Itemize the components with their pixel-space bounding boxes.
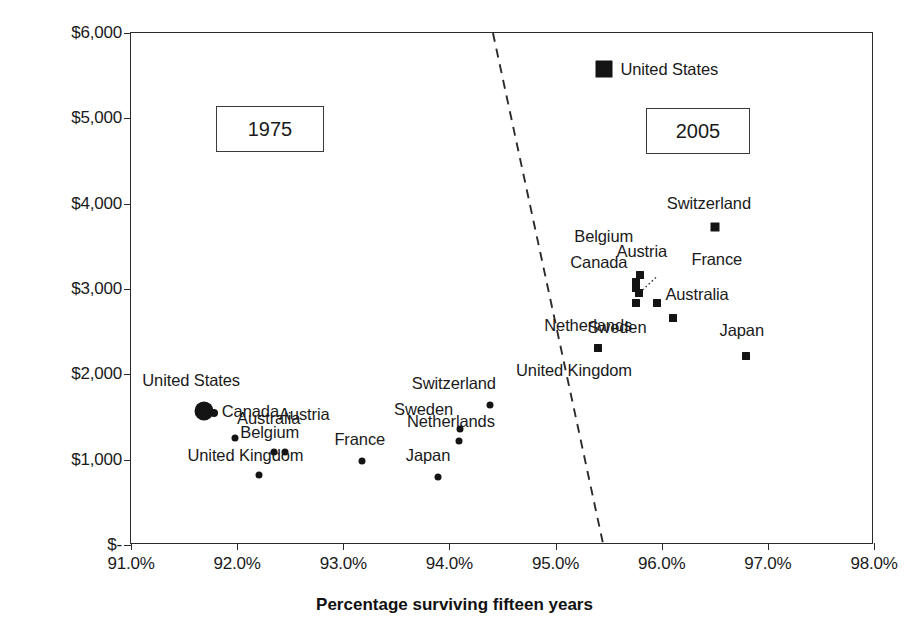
y-axis-tick xyxy=(124,33,131,34)
x-axis-tick xyxy=(768,543,769,550)
data-point-united-kingdom-1975[interactable] xyxy=(256,472,263,479)
data-point-switzerland-1975[interactable] xyxy=(486,401,493,408)
y-axis-tick xyxy=(124,374,131,375)
data-point-united-states-2005[interactable] xyxy=(596,60,613,77)
x-axis-tick-label: 94.0% xyxy=(426,554,473,574)
y-axis-tick-label: $2,000 xyxy=(71,364,122,384)
data-point-australia-2005[interactable] xyxy=(669,314,677,322)
x-axis-tick-label: 96.0% xyxy=(638,554,685,574)
x-axis-tick xyxy=(556,543,557,550)
y-axis-tick xyxy=(124,118,131,119)
y-axis-tick-label: $5,000 xyxy=(71,108,122,128)
data-point-australia-1975[interactable] xyxy=(232,435,239,442)
x-axis-tick-label: 91.0% xyxy=(107,554,154,574)
x-axis-title: Percentage surviving fifteen years xyxy=(0,595,909,615)
data-point-united-kingdom-2005[interactable] xyxy=(594,344,602,352)
x-axis-tick-label: 93.0% xyxy=(320,554,367,574)
y-axis-tick-label: $6,000 xyxy=(71,23,122,43)
y-axis-tick xyxy=(124,460,131,461)
scatter-chart: Per capita health spending (2005 US$ ) $… xyxy=(0,0,909,629)
point-label-france-1975: France xyxy=(334,431,385,448)
era-label-box-1975: 1975 xyxy=(216,106,324,152)
x-axis-tick-label: 98.0% xyxy=(850,554,897,574)
data-point-france-2005[interactable] xyxy=(635,289,643,297)
data-point-japan-1975[interactable] xyxy=(434,473,441,480)
y-axis-tick-label: $4,000 xyxy=(71,194,122,214)
point-label-switzerland-2005: Switzerland xyxy=(667,195,751,212)
point-label-switzerland-1975: Switzerland xyxy=(412,375,496,392)
point-label-united-states-1975: United States xyxy=(142,372,240,389)
point-label-sweden-2005: Sweden xyxy=(587,319,646,336)
point-label-united-kingdom-1975: United Kingdom xyxy=(187,447,303,464)
x-axis-tick-label: 97.0% xyxy=(744,554,791,574)
point-label-japan-1975: Japan xyxy=(406,447,450,464)
data-point-france-1975[interactable] xyxy=(359,457,366,464)
point-label-austria-1975: Austria xyxy=(279,406,330,423)
point-label-united-kingdom-2005: United Kingdom xyxy=(516,362,632,379)
y-axis-tick xyxy=(124,204,131,205)
x-axis-tick-label: 92.0% xyxy=(214,554,261,574)
data-point-switzerland-2005[interactable] xyxy=(710,223,719,232)
y-axis-tick-label: $3,000 xyxy=(71,279,122,299)
point-label-united-states-2005: United States xyxy=(620,61,718,78)
era-divider-line xyxy=(493,33,603,545)
era-label-box-2005: 2005 xyxy=(646,108,750,154)
point-label-japan-2005: Japan xyxy=(720,322,764,339)
y-axis-tick xyxy=(124,289,131,290)
x-axis-tick xyxy=(237,543,238,550)
x-axis-tick xyxy=(343,543,344,550)
point-label-netherlands-1975: Netherlands xyxy=(407,413,495,430)
point-label-france-2005: France xyxy=(691,251,742,268)
y-axis-tick-label: $- xyxy=(107,535,122,555)
data-point-netherlands-1975[interactable] xyxy=(455,438,462,445)
point-label-australia-2005: Australia xyxy=(665,286,728,303)
data-point-sweden-2005[interactable] xyxy=(653,299,661,307)
y-axis-tick-label: $1,000 xyxy=(71,450,122,470)
data-point-austria-2005[interactable] xyxy=(636,271,644,279)
point-label-austria-2005: Austria xyxy=(616,243,667,260)
data-point-canada-1975[interactable] xyxy=(210,409,218,417)
x-axis-tick xyxy=(874,543,875,550)
y-axis-tick xyxy=(124,545,131,546)
x-axis-tick xyxy=(449,543,450,550)
data-point-netherlands-2005[interactable] xyxy=(632,299,640,307)
x-axis-tick-label: 95.0% xyxy=(532,554,579,574)
data-point-japan-2005[interactable] xyxy=(742,352,750,360)
x-axis-tick xyxy=(662,543,663,550)
x-axis-tick xyxy=(131,543,132,550)
point-label-belgium-1975: Belgium xyxy=(240,424,299,441)
